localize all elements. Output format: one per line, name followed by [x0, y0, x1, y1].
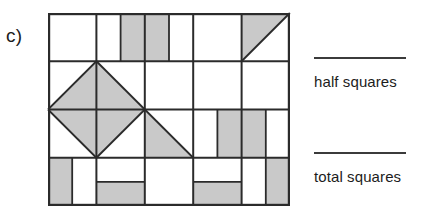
answer-caption-half-squares: half squares: [314, 73, 406, 90]
shaded-square-grid: [48, 13, 290, 206]
r1c3-left-half: [145, 13, 169, 61]
r1c2-right-half: [121, 13, 145, 61]
r3c4-right-half: [217, 110, 241, 158]
r4c5-right-half: [266, 158, 290, 206]
answer-caption-total-squares: total squares: [314, 168, 406, 185]
r4c4-bottom-half: [193, 182, 241, 206]
answer-line-half-squares[interactable]: [314, 57, 406, 59]
worksheet-figure-c: c) half squares total squares: [0, 0, 426, 215]
answer-line-total-squares[interactable]: [314, 152, 406, 154]
r4c2-bottom-half: [96, 182, 144, 206]
r4c1-left-half: [48, 158, 72, 206]
answer-block-total-squares: total squares: [314, 152, 406, 185]
part-label: c): [6, 26, 22, 45]
r3c5-left-half: [242, 110, 266, 158]
answer-block-half-squares: half squares: [314, 57, 406, 90]
grid-svg: [48, 13, 290, 206]
